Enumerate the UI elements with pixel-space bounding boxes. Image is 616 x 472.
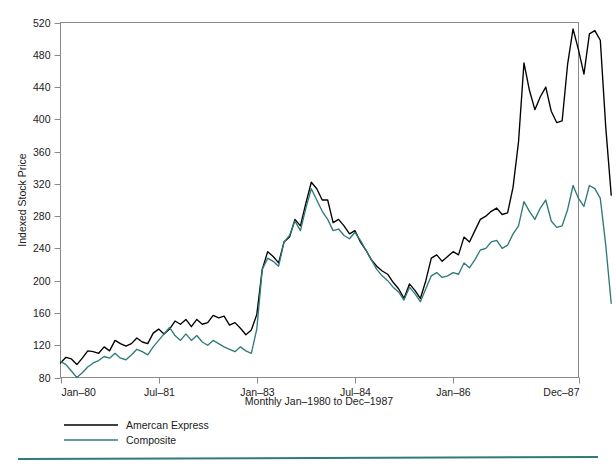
legend-label: Amercan Express <box>126 419 209 431</box>
y-tick-label: 160 <box>33 307 51 319</box>
y-tick-label: 440 <box>33 81 51 93</box>
y-tick-label: 320 <box>33 178 51 190</box>
legend-label: Composite <box>126 434 176 446</box>
y-tick-label: 80 <box>39 372 51 384</box>
y-tick-label: 240 <box>33 242 51 254</box>
x-axis-title: Monthly Jan–1980 to Dec–1987 <box>245 395 393 407</box>
y-tick-label: 480 <box>33 49 51 61</box>
y-tick-label: 280 <box>33 210 51 222</box>
x-tick-label: Jan–86 <box>436 386 471 398</box>
stock-price-chart: 80120160200240280320360400440480520 Jan–… <box>0 0 616 472</box>
y-axis-title: Indexed Stock Price <box>16 153 28 247</box>
y-tick-label: 360 <box>33 146 51 158</box>
y-tick-label: 200 <box>33 275 51 287</box>
y-tick-label: 120 <box>33 339 51 351</box>
x-tick-label: Jan–80 <box>62 386 97 398</box>
x-tick-label: Jul–81 <box>144 386 175 398</box>
y-tick-label: 400 <box>33 113 51 125</box>
x-tick-label: Dec–87 <box>543 386 579 398</box>
y-tick-label: 520 <box>33 17 51 29</box>
